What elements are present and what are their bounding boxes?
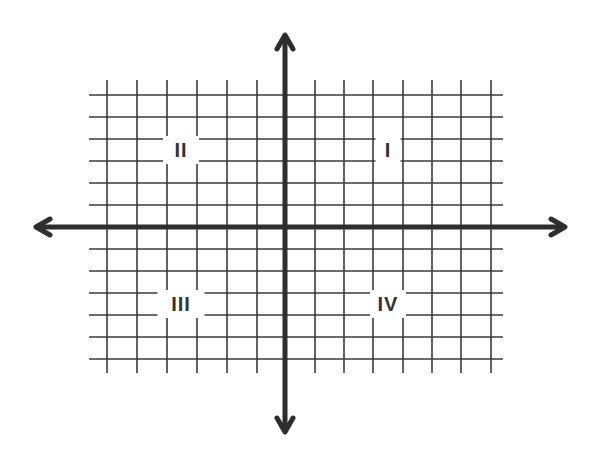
quadrant-i-label: I: [385, 139, 392, 161]
quadrant-iii-label-group: III: [158, 290, 205, 318]
quadrant-iv-label-group: IV: [370, 290, 406, 318]
coordinate-plane: I II III IV: [0, 0, 591, 463]
quadrant-iv-label: IV: [378, 293, 399, 315]
quadrant-iii-label: III: [171, 293, 191, 315]
quadrant-ii-label: II: [174, 139, 187, 161]
quadrant-i-label-group: I: [376, 136, 401, 164]
quadrant-ii-label-group: II: [163, 136, 199, 164]
